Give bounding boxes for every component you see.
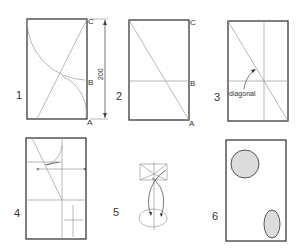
panel-6: 6: [212, 140, 286, 241]
panel-3: diagonal 3: [214, 21, 288, 121]
panel-1-point-c: C: [88, 17, 94, 26]
panel-4-number: 4: [14, 207, 20, 219]
panel-1-upper-arc: [27, 19, 85, 80]
panel-6-circle: [231, 150, 259, 178]
panel-1-lower-arc: [62, 76, 86, 118]
panel-5-left-triangle: [140, 164, 154, 180]
panel-1-point-b: B: [88, 78, 93, 87]
panel-3-annotation: diagonal: [229, 90, 256, 98]
panel-2-point-a: A: [189, 119, 195, 128]
panel-3-number: 3: [214, 91, 220, 103]
panel-1-point-a: A: [87, 118, 93, 127]
panel-2-diagonal: [129, 20, 189, 120]
panel-2-point-b: B: [190, 79, 195, 88]
panel-5-number: 5: [113, 206, 119, 218]
diagram-canvas: C B A 200 1 C B A 2 diagonal 3 × ×: [0, 0, 302, 251]
panel-4: × × 4: [14, 138, 87, 239]
cross-mark-left-icon: ×: [36, 166, 40, 172]
panel-5-right-triangle: [154, 164, 167, 180]
panel-6-ellipse: [264, 210, 280, 238]
arrow-down-icon: [103, 113, 107, 118]
panel-3-diagonal: [228, 21, 288, 121]
arrow-down-left-icon: [149, 212, 152, 216]
panel-1-rectangle: [27, 19, 87, 119]
panel-1-number: 1: [16, 89, 22, 101]
cross-mark-right-icon: ×: [83, 166, 87, 172]
panel-2-number: 2: [116, 90, 122, 102]
arrow-up-icon: [103, 20, 107, 25]
arrow-down-right-icon: [160, 213, 163, 217]
panel-1-dimension-value: 200: [97, 68, 104, 80]
panel-1-diagonal: [37, 19, 87, 119]
panel-3-leader: [244, 70, 255, 89]
panel-5: 5: [113, 162, 167, 230]
panel-6-number: 6: [212, 210, 218, 222]
panel-5-ellipse: [139, 209, 167, 227]
panel-4-rectangle: [26, 138, 86, 239]
panel-2-point-c: C: [190, 18, 196, 27]
panel-1: C B A 200 1: [16, 17, 108, 127]
panel-2: C B A 2: [116, 18, 196, 128]
